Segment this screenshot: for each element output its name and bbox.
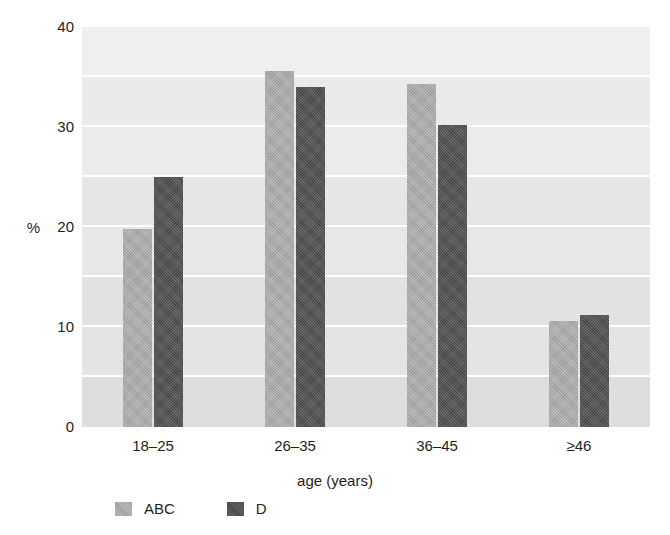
background-band	[82, 127, 650, 177]
background-band	[82, 27, 650, 77]
bar-abc-3	[549, 321, 578, 427]
x-axis-title: age (years)	[0, 472, 670, 489]
x-tick-label: 26–35	[235, 437, 355, 454]
bar-d-2	[438, 125, 467, 427]
legend-item-abc[interactable]: ABC	[115, 500, 175, 517]
bar-d-3	[580, 315, 609, 427]
legend-swatch-d	[227, 502, 244, 516]
legend-label: D	[256, 500, 267, 517]
y-tick-label: 30	[34, 119, 74, 135]
gridline	[82, 125, 650, 127]
bar-d-0	[154, 177, 183, 427]
legend-item-d[interactable]: D	[227, 500, 267, 517]
y-tick-label: 40	[34, 19, 74, 35]
plot-area	[82, 27, 650, 427]
bar-chart-figure: % 010203040 18–2526–3536–45≥46 age (year…	[0, 0, 670, 535]
y-tick-label: 20	[34, 219, 74, 235]
legend-swatch-abc	[115, 502, 132, 516]
x-tick-label: ≥46	[519, 437, 639, 454]
bar-abc-2	[407, 84, 436, 427]
y-axis-tick-labels: 010203040	[20, 0, 74, 535]
x-tick-label: 36–45	[377, 437, 497, 454]
y-tick-label: 10	[34, 319, 74, 335]
y-tick-label: 0	[34, 419, 74, 435]
chart-legend: ABCD	[115, 500, 267, 517]
background-band	[82, 77, 650, 127]
bar-abc-1	[265, 71, 294, 427]
x-tick-label: 18–25	[93, 437, 213, 454]
gridline	[82, 75, 650, 77]
bar-abc-0	[123, 229, 152, 427]
bar-d-1	[296, 87, 325, 427]
legend-label: ABC	[144, 500, 175, 517]
